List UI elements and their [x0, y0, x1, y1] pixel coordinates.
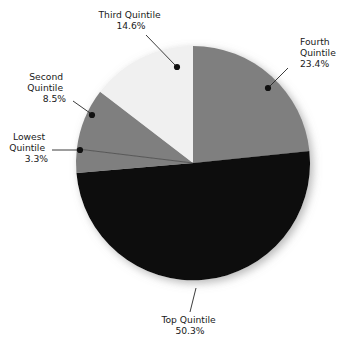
- pie-chart-svg: Third Quintile 14.6% Fourth Quintile 23.…: [0, 0, 350, 342]
- label-third-quintile: Third Quintile 14.6%: [97, 9, 163, 31]
- pie-slice-fourth-quintile[interactable]: [193, 46, 309, 163]
- label-lowest-quintile-name-2: Quintile: [9, 142, 45, 153]
- leader-line-fourth-quintile: [270, 68, 288, 86]
- label-top-quintile-name: Top Quintile: [160, 314, 216, 325]
- label-third-quintile-value: 14.6%: [116, 20, 145, 31]
- label-second-quintile-name-1: Second: [29, 71, 63, 82]
- label-fourth-quintile-name-1: Fourth: [300, 36, 330, 47]
- label-second-quintile: Second Quintile 8.5%: [27, 71, 66, 104]
- label-fourth-quintile-name-2: Quintile: [300, 47, 336, 58]
- leader-dot-lowest-quintile: [77, 147, 83, 153]
- leader-dot-second-quintile: [89, 112, 95, 118]
- label-fourth-quintile: Fourth Quintile 23.4%: [300, 36, 339, 69]
- label-top-quintile: Top Quintile 50.3%: [160, 314, 218, 336]
- label-second-quintile-value: 8.5%: [43, 93, 67, 104]
- label-lowest-quintile-name-1: Lowest: [13, 131, 46, 142]
- label-lowest-quintile: Lowest Quintile 3.3%: [9, 131, 48, 164]
- leader-dot-third-quintile: [174, 64, 180, 70]
- label-lowest-quintile-value: 3.3%: [25, 153, 49, 164]
- label-fourth-quintile-value: 23.4%: [300, 58, 329, 69]
- label-third-quintile-name: Third Quintile: [97, 9, 160, 20]
- pie-chart-figure: Third Quintile 14.6% Fourth Quintile 23.…: [0, 0, 350, 342]
- leader-dot-fourth-quintile: [265, 85, 271, 91]
- leader-line-second-quintile: [73, 101, 90, 113]
- leader-line-top-quintile: [190, 288, 196, 312]
- label-second-quintile-name-2: Quintile: [27, 82, 63, 93]
- pie-slice-top-quintile[interactable]: [76, 151, 310, 280]
- label-top-quintile-value: 50.3%: [175, 325, 204, 336]
